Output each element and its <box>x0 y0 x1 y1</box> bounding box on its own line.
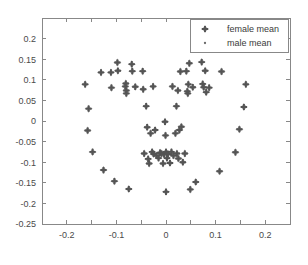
y-axis-tick-label: -0.2 <box>20 199 36 209</box>
y-axis-tick-label: 0.1 <box>23 75 36 85</box>
x-axis-tick-label: -0.2 <box>59 230 75 240</box>
legend: female meanmale mean <box>190 19 288 52</box>
chart-canvas: 0.20.150.10.050-0.05-0.1-0.15-0.2-0.25 -… <box>0 0 308 265</box>
x-axis-tick-label: 0.2 <box>259 230 272 240</box>
y-axis-tick-label: -0.15 <box>15 178 36 188</box>
y-axis-tick-label: 0 <box>31 116 36 126</box>
x-axis-tick-label: 0.1 <box>209 230 222 240</box>
y-axis-tick-label: 0.05 <box>18 96 36 106</box>
x-axis-tick-label: 0 <box>163 230 168 240</box>
dot-marker-icon <box>204 42 206 44</box>
y-axis-tick-label: -0.25 <box>15 219 36 229</box>
y-axis-tick-label: 0.2 <box>23 34 36 44</box>
scatter-plot-figure: 0.20.150.10.050-0.05-0.1-0.15-0.2-0.25 -… <box>0 0 308 265</box>
y-axis-tick-label: 0.15 <box>18 55 36 65</box>
y-axis-tick-label: -0.1 <box>20 158 36 168</box>
y-axis-tick-label: -0.05 <box>15 137 36 147</box>
legend-label: male mean <box>227 38 272 48</box>
x-axis-tick-label: -0.1 <box>109 230 125 240</box>
legend-label: female mean <box>227 24 279 34</box>
